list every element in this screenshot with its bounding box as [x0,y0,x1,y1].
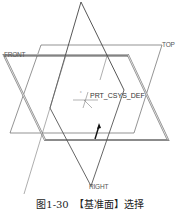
front-plane-label: FRONT [4,52,25,59]
svg-text:x: x [80,90,82,94]
right-plane-label: RIGHT [89,184,108,191]
top-plane-label: TOP [162,42,175,49]
datum-planes-view: x FRONT TOP RIGHT PRT_CSYS_DEF [0,0,180,194]
direction-arrow-icon [95,123,101,139]
figure-caption: 图1-30 【基准面】选择 [0,196,180,211]
top-plane[interactable] [10,45,162,133]
csys-label: PRT_CSYS_DEF [90,92,145,99]
